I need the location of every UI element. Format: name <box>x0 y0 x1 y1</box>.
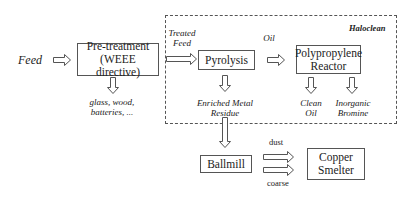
pyrolysis-box: Pyrolysis <box>198 50 255 70</box>
treated-feed-line1: Treated <box>166 28 198 38</box>
residue-line1: Enriched Metal <box>192 98 258 108</box>
feed-label: Feed <box>18 53 42 68</box>
pp-reactor-box: Polypropylene Reactor <box>296 45 361 74</box>
pretreatment-line1: Pre-treatment <box>87 40 150 53</box>
arrow-down-icon <box>219 75 231 92</box>
clean-oil-label: Clean Oil <box>295 98 327 118</box>
arrow-down-icon <box>107 77 119 94</box>
ballmill-label: Ballmill <box>207 158 245 171</box>
smelter-line2: Smelter <box>318 164 354 177</box>
pp-reactor-line1: Polypropylene <box>295 47 362 60</box>
arrow-down-icon <box>219 117 231 148</box>
arrow-down-icon <box>305 77 317 94</box>
pretreatment-box: Pre-treatment (WEEE directive) <box>77 43 159 76</box>
haloclean-label: Haloclean <box>349 23 385 33</box>
clean-oil-line2: Oil <box>295 108 327 118</box>
treated-feed-line2: Feed <box>166 38 198 48</box>
copper-smelter-box: Copper Smelter <box>307 148 365 180</box>
pretreatment-line2: (WEEE directive) <box>78 53 158 79</box>
arrow-right-icon <box>267 54 285 66</box>
arrow-right-icon <box>263 164 294 176</box>
residue-label: Enriched Metal Residue <box>192 98 258 118</box>
arrow-right-icon <box>263 151 294 163</box>
clean-oil-line1: Clean <box>295 98 327 108</box>
pyrolysis-label: Pyrolysis <box>205 54 248 67</box>
arrow-right-icon <box>166 53 197 65</box>
bromine-label: Inorganic Bromine <box>330 98 376 118</box>
bromine-line1: Inorganic <box>330 98 376 108</box>
arrow-right-icon <box>53 54 71 66</box>
treated-feed-label: Treated Feed <box>166 28 198 48</box>
smelter-line1: Copper <box>319 151 353 164</box>
rejects-line2: batteries, ... <box>84 107 140 117</box>
ballmill-box: Ballmill <box>200 155 252 173</box>
arrow-down-icon <box>346 77 358 94</box>
oil-label: Oil <box>262 33 276 43</box>
rejects-line1: glass, wood, <box>84 97 140 107</box>
dust-label: dust <box>269 137 283 147</box>
bromine-line2: Bromine <box>330 108 376 118</box>
pp-reactor-line2: Reactor <box>311 60 347 73</box>
coarse-label: coarse <box>267 178 289 188</box>
rejects-label: glass, wood, batteries, ... <box>84 97 140 117</box>
